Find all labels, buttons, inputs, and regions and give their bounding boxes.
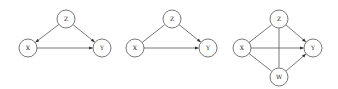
- causal-graph-figure: ZXYZXYZXYW: [0, 0, 338, 89]
- node-label: X: [240, 44, 245, 51]
- edge-z-y: [73, 25, 95, 42]
- node-label: W: [276, 73, 283, 80]
- edge-w-y: [286, 54, 306, 71]
- edge-z-y: [179, 25, 201, 42]
- edges-layer: [36, 24, 306, 71]
- diagram-2-nodes: ZXY: [126, 10, 217, 57]
- node-label: Z: [277, 15, 281, 22]
- node-label: X: [133, 44, 138, 51]
- diagram-1-nodes: ZXY: [19, 10, 111, 57]
- edge-x-z: [142, 25, 164, 43]
- diagram-3: [249, 25, 306, 71]
- node-label: Z: [64, 15, 68, 22]
- edge-x-z: [249, 25, 271, 43]
- diagram-canvas: ZXYZXYZXYW: [0, 0, 338, 89]
- node-label: Z: [170, 15, 174, 22]
- edge-z-y: [286, 25, 306, 42]
- edge-z-x: [36, 24, 59, 42]
- node-label: X: [26, 44, 31, 51]
- edge-x-w: [249, 54, 271, 72]
